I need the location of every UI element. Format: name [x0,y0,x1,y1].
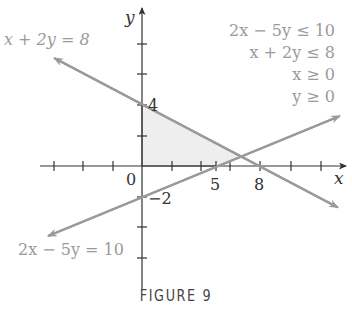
x-tick-5-label: 5 [210,175,220,194]
constraint-2: x + 2y ≤ 8 [249,43,335,62]
constraint-1: 2x − 5y ≤ 10 [229,21,335,40]
figure-caption: FIGURE 9 [35,286,317,305]
x-tick-8-label: 8 [254,175,264,194]
origin-label: 0 [126,170,136,189]
graph: x + 2y = 8 2x − 5y = 10 2x − 5y ≤ 10 x +… [0,0,352,313]
line2-label: 2x − 5y = 10 [18,240,124,259]
line1-label: x + 2y = 8 [4,30,90,49]
y-tick-neg2-label: −2 [148,189,172,208]
constraint-3: x ≥ 0 [292,65,335,84]
y-axis-label: y [124,7,135,27]
constraint-4: y ≥ 0 [291,87,335,106]
y-tick-4-label: 4 [148,96,158,115]
x-axis-label: x [334,168,344,188]
